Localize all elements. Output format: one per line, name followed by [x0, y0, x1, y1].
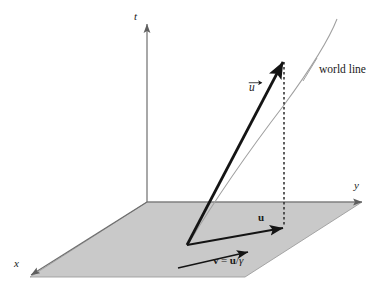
diagram-canvas: [0, 0, 387, 290]
world-line-label: world line: [319, 64, 366, 76]
proper-velocity-label-text: u: [249, 81, 255, 93]
proper-velocity-label: u: [249, 82, 255, 94]
x-axis-label: x: [14, 258, 19, 269]
velocity-gamma-symbol: γ: [239, 254, 243, 266]
y-axis-label: y: [354, 180, 359, 191]
xy-ground-plane: [30, 202, 362, 277]
velocity-equation-label: v=u/γ: [213, 255, 243, 266]
t-axis-label: t: [134, 11, 137, 22]
physics-diagram-figure: t y x u u v=u/γ world line: [0, 0, 387, 290]
u-vector-accent-wrapper: u: [249, 82, 255, 94]
world-line-leader: [303, 58, 317, 81]
velocity-equals-symbol: =: [221, 254, 227, 266]
velocity-v-symbol: v: [213, 254, 219, 266]
u-component-label: u: [258, 212, 264, 223]
